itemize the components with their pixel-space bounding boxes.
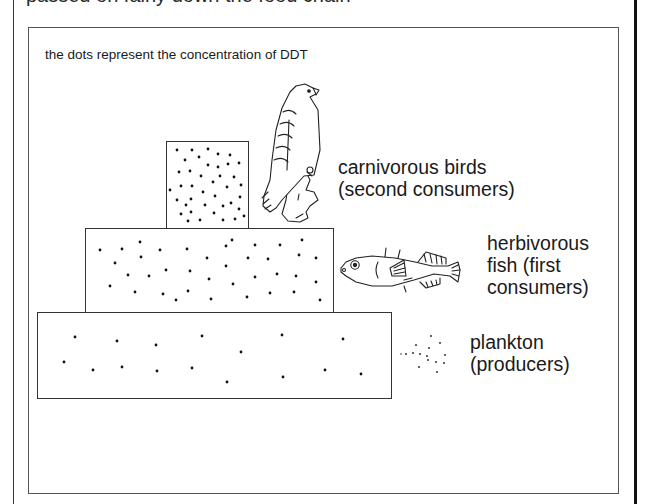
label-herbivorous-fish-line2: fish (first	[487, 254, 589, 276]
label-carnivorous-birds: carnivorous birds (second consumers)	[338, 156, 515, 200]
label-plankton-line2: (producers)	[470, 353, 570, 375]
label-carnivorous-birds-line1: carnivorous birds	[338, 156, 515, 178]
label-herbivorous-fish: herbivorous fish (first consumers)	[487, 232, 589, 298]
label-carnivorous-birds-line2: (second consumers)	[338, 178, 515, 200]
bird-icon	[262, 84, 320, 222]
ddt-dots-birds	[169, 148, 246, 223]
label-herbivorous-fish-line3: consumers)	[487, 276, 589, 298]
label-plankton: plankton (producers)	[470, 331, 570, 375]
label-plankton-line1: plankton	[470, 331, 570, 353]
ddt-dots-plankton	[63, 334, 363, 384]
plankton-icon	[400, 335, 446, 373]
fish-icon	[341, 248, 460, 292]
ddt-dots-fish	[99, 239, 322, 302]
label-herbivorous-fish-line1: herbivorous	[487, 232, 589, 254]
